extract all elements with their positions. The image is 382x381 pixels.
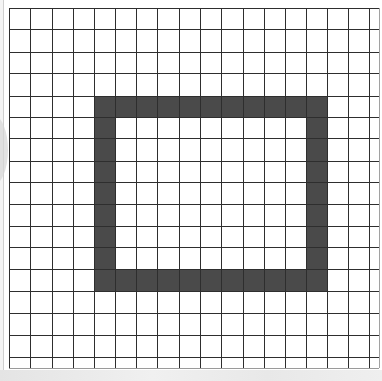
grid-vertical-line: [264, 8, 265, 368]
grid-vertical-line: [243, 8, 244, 368]
grid-vertical-line: [157, 8, 158, 368]
grid-horizontal-line: [9, 138, 379, 139]
grid-vertical-line: [9, 8, 10, 368]
outline-right: [306, 96, 327, 291]
grid-horizontal-line: [9, 313, 379, 314]
background-strip: [0, 370, 382, 381]
grid-vertical-line: [327, 8, 328, 368]
grid-bottom-edge: [9, 368, 379, 369]
grid-vertical-line: [200, 8, 201, 368]
grid-horizontal-line: [9, 226, 379, 227]
grid-vertical-line: [369, 8, 370, 368]
grid-horizontal-line: [9, 182, 379, 183]
grid-vertical-line: [379, 8, 380, 368]
grid-vertical-line: [115, 8, 116, 368]
grid-horizontal-line: [9, 8, 379, 9]
grid-vertical-line: [136, 8, 137, 368]
outline-left: [94, 96, 115, 291]
grid-horizontal-line: [9, 335, 379, 336]
outline-bottom: [94, 270, 327, 291]
paper-edge: [3, 0, 4, 372]
grid-vertical-line: [306, 8, 307, 368]
grid-vertical-line: [30, 8, 31, 368]
grid-vertical-line: [73, 8, 74, 368]
grid-horizontal-line: [9, 52, 379, 53]
grid-horizontal-line: [9, 161, 379, 162]
grid-vertical-line: [348, 8, 349, 368]
grid-horizontal-line: [9, 73, 379, 74]
grid-horizontal-line: [9, 29, 379, 30]
graph-paper: [0, 0, 382, 381]
grid-vertical-line: [285, 8, 286, 368]
grid-horizontal-line: [9, 204, 379, 205]
grid-vertical-line: [179, 8, 180, 368]
grid-vertical-line: [52, 8, 53, 368]
grid-vertical-line: [221, 8, 222, 368]
grid-horizontal-line: [9, 247, 379, 248]
grid-horizontal-line: [9, 117, 379, 118]
outline-top: [94, 96, 327, 117]
grid-horizontal-line: [9, 96, 379, 97]
grid-vertical-line: [94, 8, 95, 368]
grid-horizontal-line: [9, 291, 379, 292]
grid-horizontal-line: [9, 269, 379, 270]
grid-horizontal-line: [9, 357, 379, 358]
